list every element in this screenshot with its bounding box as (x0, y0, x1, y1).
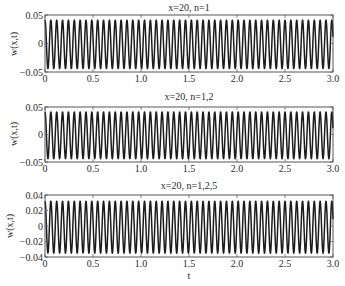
y-tick-label: −0.04 (20, 252, 43, 263)
subplot-title: x=20, n=1,2,5 (161, 180, 217, 191)
subplot-3: x=20, n=1,2,5 w(x,t) t 00.51.01.52.02.53… (4, 180, 339, 281)
y-tick-label: 0.04 (26, 190, 44, 201)
x-tick-label: 2.0 (231, 258, 244, 269)
y-tick-label: −0.05 (20, 157, 43, 168)
x-tick-label: 2.0 (231, 163, 244, 174)
x-tick-label: 2.0 (231, 73, 244, 84)
y-tick-label: 0.02 (26, 205, 44, 216)
subplot-2: x=20, n=1,2 w(x,t) 00.51.01.52.02.53.0−0… (8, 91, 339, 174)
x-tick-label: 3.0 (327, 163, 340, 174)
x-tick-label: 0.5 (87, 163, 100, 174)
x-tick-label: 1.5 (183, 258, 196, 269)
x-tick-label: 1.5 (183, 163, 196, 174)
chart-canvas: x=20, n=1 w(x,t) 00.51.01.52.02.53.0−0.0… (0, 0, 345, 286)
subplot-title: x=20, n=1 (168, 2, 209, 13)
x-tick-label: 1.5 (183, 73, 196, 84)
x-tick-label: 2.5 (279, 73, 292, 84)
plot-area: 00.51.01.52.02.53.0−0.0500.05 (20, 10, 339, 85)
x-tick-label: 3.0 (327, 73, 340, 84)
y-tick-label: 0.05 (26, 10, 44, 21)
y-axis-label: w(x,t) (8, 32, 20, 56)
x-tick-label: 0 (43, 258, 48, 269)
subplot-1: x=20, n=1 w(x,t) 00.51.01.52.02.53.0−0.0… (8, 2, 339, 84)
y-axis-label: w(x,t) (8, 122, 20, 146)
subplot-title: x=20, n=1,2 (165, 91, 214, 102)
x-tick-label: 0 (43, 163, 48, 174)
x-tick-label: 2.5 (279, 258, 292, 269)
y-axis-label: w(x,t) (4, 214, 16, 238)
series-line (45, 20, 333, 68)
y-tick-label: −0.05 (20, 67, 43, 78)
y-tick-label: 0 (38, 129, 43, 140)
y-tick-label: 0.05 (26, 102, 44, 113)
x-tick-label: 0.5 (87, 73, 100, 84)
x-tick-label: 0.5 (87, 258, 100, 269)
x-tick-label: 1.0 (135, 163, 148, 174)
y-tick-label: 0 (38, 221, 43, 232)
figure: x=20, n=1 w(x,t) 00.51.01.52.02.53.0−0.0… (0, 0, 345, 286)
y-tick-label: −0.02 (20, 236, 43, 247)
x-tick-label: 2.5 (279, 163, 292, 174)
y-tick-label: 0 (38, 38, 43, 49)
x-tick-label: 1.0 (135, 73, 148, 84)
plot-area: 00.51.01.52.02.53.0−0.04−0.0200.020.04 (20, 190, 339, 270)
x-tick-label: 0 (43, 73, 48, 84)
series-line (45, 201, 333, 253)
x-tick-label: 3.0 (327, 258, 340, 269)
x-axis-label: t (188, 270, 191, 281)
series-line (45, 112, 333, 159)
plot-area: 00.51.01.52.02.53.0−0.0500.05 (20, 102, 339, 175)
x-tick-label: 1.0 (135, 258, 148, 269)
